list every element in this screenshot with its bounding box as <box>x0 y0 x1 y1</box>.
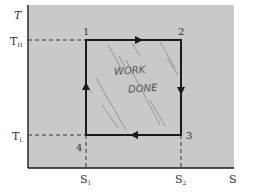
x-axis-label: S <box>229 173 237 186</box>
state-2-label: 2 <box>178 26 184 37</box>
work-done-line2: DONE <box>128 82 159 95</box>
tl-tick-label: TL <box>12 130 23 143</box>
state-4-label: 4 <box>76 142 82 153</box>
work-done-line1: WORK <box>114 64 147 77</box>
state-3-label: 3 <box>186 130 192 141</box>
s2-tick-label: S2 <box>175 173 187 186</box>
th-tick-label: TH <box>10 35 23 48</box>
state-1-label: 1 <box>83 26 89 37</box>
ts-diagram: 1 2 3 4 T S TH TL S1 S2 WORK DONE <box>0 0 257 193</box>
s1-tick-label: S1 <box>80 173 91 186</box>
y-axis-label: T <box>14 9 23 22</box>
